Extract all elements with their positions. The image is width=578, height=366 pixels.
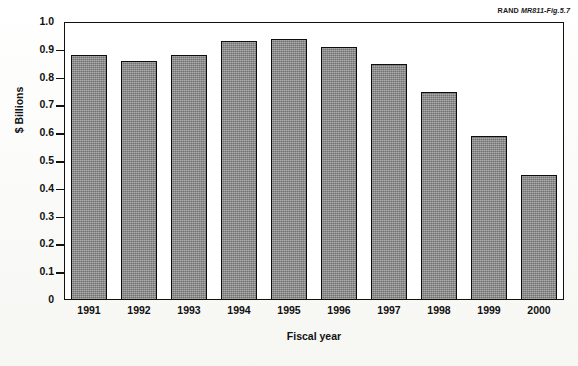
y-axis-tick-label: 0 [48, 293, 54, 305]
x-axis-tick-label: 2000 [514, 304, 564, 316]
x-axis-tick-label: 1998 [414, 304, 464, 316]
y-axis-tick-mark [56, 272, 64, 274]
y-axis-tick: 0.5 [0, 161, 62, 162]
bar-series [64, 22, 564, 300]
y-axis-tick-label: 0.7 [39, 98, 54, 110]
x-axis-tick-label: 1993 [164, 304, 214, 316]
y-axis-tick-mark [56, 189, 64, 191]
bar [121, 61, 157, 300]
source-credit: RAND MR811-Fig.5.7 [498, 6, 570, 15]
y-axis-tick-mark [56, 217, 64, 219]
bar-slot [214, 22, 264, 300]
y-axis-tick: 1.0 [0, 22, 62, 23]
y-axis-tick: 0.9 [0, 50, 62, 51]
x-axis-tick-label: 1995 [264, 304, 314, 316]
x-axis-tick-labels: 1991199219931994199519961997199819992000 [64, 304, 564, 322]
bar-slot [414, 22, 464, 300]
bar [71, 55, 107, 300]
y-axis-title: $ Billions [13, 50, 25, 170]
y-axis-tick-mark [56, 244, 64, 246]
y-axis-tick-mark [56, 161, 64, 163]
y-axis-tick-label: 0.2 [39, 237, 54, 249]
bar [171, 55, 207, 300]
x-axis-title: Fiscal year [64, 330, 564, 342]
y-axis-tick-mark [56, 105, 64, 107]
y-axis-tick: 0.7 [0, 105, 62, 106]
y-axis-tick-label: 0.6 [39, 126, 54, 138]
credit-figure-number: MR811-Fig.5.7 [521, 6, 570, 15]
y-axis-tick: 0.2 [0, 244, 62, 245]
y-axis-tick-label: 0.5 [39, 154, 54, 166]
bar-slot [364, 22, 414, 300]
bar [221, 41, 257, 300]
y-axis-tick: 0.8 [0, 78, 62, 79]
y-axis-tick-label: 0.1 [39, 265, 54, 277]
y-axis-tick: 0.3 [0, 217, 62, 218]
bar [271, 39, 307, 300]
bar-slot [114, 22, 164, 300]
bar-slot [514, 22, 564, 300]
y-axis-tick: 0.6 [0, 133, 62, 134]
y-axis-tick-label: 0.9 [39, 43, 54, 55]
y-axis-tick-label: 0.8 [39, 71, 54, 83]
y-axis-tick-mark [56, 50, 64, 52]
x-axis-tick-label: 1997 [364, 304, 414, 316]
x-axis-tick-label: 1992 [114, 304, 164, 316]
x-axis-tick-label: 1994 [214, 304, 264, 316]
bar [521, 175, 557, 300]
y-axis-tick: 0.1 [0, 272, 62, 273]
y-axis-tick-label: 1.0 [39, 15, 54, 27]
y-axis-tick-label: 0.3 [39, 210, 54, 222]
figure-container: RAND MR811-Fig.5.7 $ Billions 1991199219… [0, 0, 578, 366]
y-axis-tick-label: 0.4 [39, 182, 54, 194]
bar [471, 136, 507, 300]
bar [371, 64, 407, 300]
bar-slot [314, 22, 364, 300]
y-axis-tick: 0.4 [0, 189, 62, 190]
bar-slot [464, 22, 514, 300]
bar-slot [64, 22, 114, 300]
y-axis-tick-mark [56, 78, 64, 80]
x-axis-tick-label: 1996 [314, 304, 364, 316]
x-axis-tick-label: 1991 [64, 304, 114, 316]
x-axis-tick-label: 1999 [464, 304, 514, 316]
bar-slot [164, 22, 214, 300]
bar-slot [264, 22, 314, 300]
bar [421, 92, 457, 301]
y-axis-tick-mark [56, 133, 64, 135]
credit-organization: RAND [498, 6, 519, 15]
bar [321, 47, 357, 300]
y-axis-tick: 0 [0, 300, 62, 301]
